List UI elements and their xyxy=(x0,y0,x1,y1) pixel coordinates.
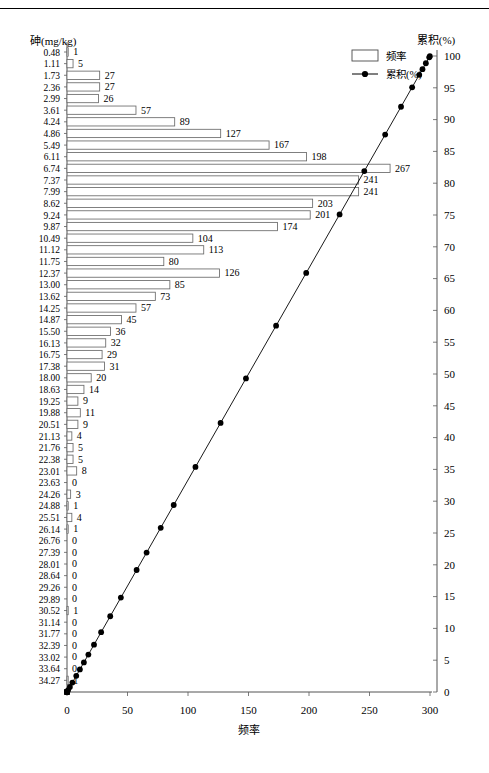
y-tick-label: 22.38 xyxy=(39,455,61,465)
y2-tick-label: 0 xyxy=(444,686,450,698)
bar xyxy=(67,292,155,300)
bar xyxy=(67,71,100,79)
combo-chart-svg: 砷(mg/kg)0.4811.1151.73272.36272.99263.61… xyxy=(0,0,489,773)
y-tick-label: 33.02 xyxy=(39,653,61,663)
bar xyxy=(67,106,136,114)
cumulative-point xyxy=(423,60,429,66)
chart-page: 砷(mg/kg)0.4811.1151.73272.36272.99263.61… xyxy=(0,0,489,773)
bar-value-label: 9 xyxy=(83,419,88,430)
bar-value-label: 5 xyxy=(78,442,83,453)
y-tick-label: 32.39 xyxy=(39,641,61,651)
x-tick-label: 200 xyxy=(301,704,318,716)
bar xyxy=(67,48,68,56)
bar-value-label: 20 xyxy=(96,372,106,383)
bar xyxy=(67,164,390,172)
y2-tick-label: 40 xyxy=(444,431,456,443)
y-tick-label: 19.88 xyxy=(39,408,61,418)
y-tick-label: 4.24 xyxy=(43,117,60,127)
cumulative-point xyxy=(398,104,404,110)
bar-value-label: 167 xyxy=(274,139,289,150)
bar-value-label: 73 xyxy=(160,291,170,302)
bar xyxy=(67,281,170,289)
bar-value-label: 0 xyxy=(72,640,77,651)
bar xyxy=(67,176,359,184)
bar xyxy=(67,222,278,230)
bar-value-label: 57 xyxy=(141,105,151,116)
bar-value-label: 0 xyxy=(72,570,77,581)
y-tick-label: 13.62 xyxy=(39,292,61,302)
bar xyxy=(67,83,100,91)
chart-canvas: 砷(mg/kg)0.4811.1151.73272.36272.99263.61… xyxy=(0,0,489,773)
bar xyxy=(67,409,80,417)
bar-value-label: 203 xyxy=(318,198,333,209)
y-tick-label: 6.11 xyxy=(44,152,61,162)
cumulative-point xyxy=(426,54,432,60)
bar-value-label: 4 xyxy=(77,430,82,441)
bar-value-label: 1 xyxy=(73,605,78,616)
y-tick-label: 5.49 xyxy=(43,141,60,151)
bar-value-label: 241 xyxy=(364,174,379,185)
x-tick-label: 300 xyxy=(422,704,439,716)
bar-value-label: 0 xyxy=(72,651,77,662)
y-tick-label: 4.86 xyxy=(43,129,60,139)
bar-value-label: 9 xyxy=(83,395,88,406)
bar xyxy=(67,234,193,242)
bar xyxy=(67,443,73,451)
cumulative-point xyxy=(361,168,367,174)
bar-value-label: 0 xyxy=(72,558,77,569)
bar-value-label: 1 xyxy=(73,523,78,534)
cumulative-point xyxy=(77,667,83,673)
y-tick-label: 16.75 xyxy=(39,350,61,360)
bar-value-label: 0 xyxy=(72,628,77,639)
bar xyxy=(67,211,310,219)
bar xyxy=(67,490,71,498)
bar-value-label: 127 xyxy=(226,128,241,139)
bar xyxy=(67,502,68,510)
y-tick-label: 20.51 xyxy=(39,420,61,430)
y-tick-label: 25.51 xyxy=(39,513,61,523)
y-tick-label: 6.74 xyxy=(43,164,60,174)
cumulative-point xyxy=(98,629,104,635)
legend-swatch-frequency xyxy=(352,50,378,61)
bar xyxy=(67,304,136,312)
y2-tick-label: 85 xyxy=(444,145,456,157)
legend-marker-cumulative xyxy=(362,71,368,77)
bar xyxy=(67,199,313,207)
legend-label-cumulative: 累积(%) xyxy=(386,69,422,81)
y2-tick-label: 55 xyxy=(444,336,456,348)
y-tick-label: 26.76 xyxy=(39,536,61,546)
y-tick-label: 16.13 xyxy=(39,339,61,349)
y-tick-label: 3.61 xyxy=(43,106,60,116)
y-tick-label: 8.62 xyxy=(43,199,60,209)
y-tick-label: 1.11 xyxy=(44,59,61,69)
bar-value-label: 198 xyxy=(312,151,327,162)
cumulative-point xyxy=(85,652,91,658)
cumulative-point xyxy=(171,502,177,508)
y-tick-label: 29.89 xyxy=(39,595,61,605)
bar-value-label: 8 xyxy=(82,465,87,476)
bar-value-label: 27 xyxy=(105,70,115,81)
bar xyxy=(67,339,106,347)
y2-tick-label: 90 xyxy=(444,113,456,125)
y2-tick-label: 50 xyxy=(444,368,456,380)
y-tick-label: 10.49 xyxy=(39,234,61,244)
bar xyxy=(67,59,73,67)
bar-value-label: 1 xyxy=(73,46,78,57)
bar-value-label: 241 xyxy=(364,186,379,197)
y-tick-label: 31.14 xyxy=(39,618,61,628)
bar xyxy=(67,374,91,382)
bar-value-label: 14 xyxy=(89,384,99,395)
bar xyxy=(67,362,105,370)
bar-value-label: 0 xyxy=(72,663,77,674)
bar xyxy=(67,606,68,614)
bar-value-label: 1 xyxy=(73,500,78,511)
x-tick-label: 100 xyxy=(180,704,197,716)
y-tick-label: 11.75 xyxy=(39,257,60,267)
cumulative-point xyxy=(73,673,79,679)
y-tick-label: 23.01 xyxy=(39,467,61,477)
cumulative-point xyxy=(91,642,97,648)
y2-tick-label: 75 xyxy=(444,209,456,221)
cumulative-point xyxy=(107,613,113,619)
y-tick-label: 23.63 xyxy=(39,478,61,488)
y-tick-label: 24.88 xyxy=(39,501,61,511)
